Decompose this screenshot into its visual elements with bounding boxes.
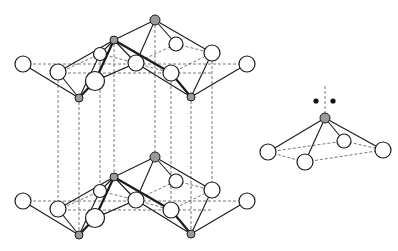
isolated-pyramid — [260, 86, 391, 170]
structure-svg — [0, 0, 398, 251]
crystal-structure-diagram: Layered crystal structure: two stacked p… — [0, 0, 398, 251]
lone-pair-dot — [330, 98, 335, 103]
bottom-layer — [15, 152, 255, 239]
top-layer — [15, 15, 255, 102]
lone-pair-dot — [313, 98, 318, 103]
figure-description: Layered crystal structure: two stacked p… — [0, 0, 398, 22]
